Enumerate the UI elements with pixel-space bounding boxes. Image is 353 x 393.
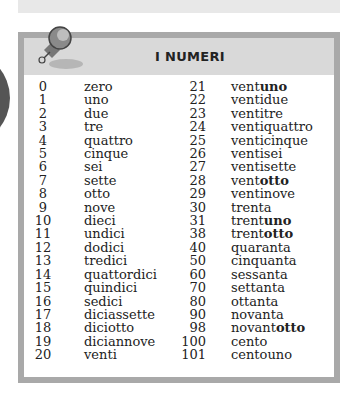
number-digit: 9	[26, 201, 60, 214]
number-word: ventitre	[210, 107, 331, 120]
number-word: quindici	[60, 281, 176, 294]
number-word: venticinque	[210, 134, 331, 147]
number-word: novanta	[210, 308, 331, 321]
number-digit: 29	[176, 187, 210, 200]
number-word: venti	[60, 348, 176, 361]
number-digit: 10	[26, 214, 60, 227]
number-digit: 2	[26, 107, 60, 120]
number-word: quaranta	[210, 241, 331, 254]
left-number-list: 0zero1uno2due3tre4quattro5cinque6sei7set…	[24, 80, 176, 362]
number-digit: 3	[26, 120, 60, 133]
number-word: ventisette	[210, 160, 331, 173]
number-word: centouno	[210, 348, 331, 361]
number-word: otto	[60, 187, 176, 200]
number-word: sedici	[60, 295, 176, 308]
number-word: trenta	[210, 201, 331, 214]
number-word: dieci	[60, 214, 176, 227]
number-digit: 12	[26, 241, 60, 254]
top-grey-strip	[18, 0, 340, 13]
number-word: diciotto	[60, 321, 176, 334]
number-digit: 26	[176, 147, 210, 160]
number-digit: 5	[26, 147, 60, 160]
number-word: sessanta	[210, 268, 331, 281]
number-word: nove	[60, 201, 176, 214]
number-word: quattro	[60, 134, 176, 147]
number-digit: 11	[26, 227, 60, 240]
number-word: diciannove	[60, 335, 176, 348]
number-word: ventidue	[210, 93, 331, 106]
number-digit: 90	[176, 308, 210, 321]
number-word: trentotto	[210, 227, 331, 240]
side-decorative-circle	[0, 52, 10, 144]
number-word: sette	[60, 174, 176, 187]
number-digit: 24	[176, 120, 210, 133]
number-word: ventisei	[210, 147, 331, 160]
number-word: trentuno	[210, 214, 331, 227]
number-digit: 18	[26, 321, 60, 334]
number-digit: 28	[176, 174, 210, 187]
number-digit: 0	[26, 80, 60, 93]
number-digit: 100	[176, 335, 210, 348]
number-word: dodici	[60, 241, 176, 254]
number-digit: 6	[26, 160, 60, 173]
number-digit: 25	[176, 134, 210, 147]
number-digit: 7	[26, 174, 60, 187]
number-digit: 70	[176, 281, 210, 294]
number-digit: 40	[176, 241, 210, 254]
number-digit: 17	[26, 308, 60, 321]
number-digit: 16	[26, 295, 60, 308]
number-word: ventuno	[210, 80, 331, 93]
number-digit: 13	[26, 254, 60, 267]
number-word: sei	[60, 160, 176, 173]
pushpin-icon	[30, 24, 86, 72]
number-digit: 20	[26, 348, 60, 361]
number-word: undici	[60, 227, 176, 240]
word-stem: centouno	[231, 347, 292, 362]
number-word: due	[60, 107, 176, 120]
box-title: I NUMERI	[155, 49, 225, 64]
right-number-list: 21ventuno22ventidue23ventitre24ventiquat…	[176, 80, 331, 362]
number-word: cinque	[60, 147, 176, 160]
number-digit: 50	[176, 254, 210, 267]
number-word: tre	[60, 120, 176, 133]
number-digit: 80	[176, 295, 210, 308]
number-digit: 30	[176, 201, 210, 214]
number-digit: 22	[176, 93, 210, 106]
number-word: tredici	[60, 254, 176, 267]
number-digit: 60	[176, 268, 210, 281]
number-word: cento	[210, 335, 331, 348]
number-word: uno	[60, 93, 176, 106]
number-digit: 1	[26, 93, 60, 106]
number-word: diciassette	[60, 308, 176, 321]
number-digit: 21	[176, 80, 210, 93]
number-word: ventiquattro	[210, 120, 331, 133]
number-word: zero	[60, 80, 176, 93]
word-bold-suffix: otto	[276, 320, 305, 335]
number-word: ventinove	[210, 187, 331, 200]
number-digit: 31	[176, 214, 210, 227]
number-digit: 14	[26, 268, 60, 281]
number-digit: 98	[176, 321, 210, 334]
number-digit: 8	[26, 187, 60, 200]
number-word: quattordici	[60, 268, 176, 281]
number-digit: 15	[26, 281, 60, 294]
number-word: ottanta	[210, 295, 331, 308]
numbers-box-inner: I NUMERI 0zero1uno2due3tre4quattro5cinqu…	[24, 38, 334, 377]
number-word: cinquanta	[210, 254, 331, 267]
number-digit: 27	[176, 160, 210, 173]
number-digit: 4	[26, 134, 60, 147]
number-digit: 19	[26, 335, 60, 348]
number-digit: 101	[176, 348, 210, 361]
number-word: ventotto	[210, 174, 331, 187]
number-digit: 23	[176, 107, 210, 120]
number-word: novantotto	[210, 321, 331, 334]
number-digit: 38	[176, 227, 210, 240]
numbers-box: I NUMERI 0zero1uno2due3tre4quattro5cinqu…	[18, 32, 340, 383]
number-word: settanta	[210, 281, 331, 294]
